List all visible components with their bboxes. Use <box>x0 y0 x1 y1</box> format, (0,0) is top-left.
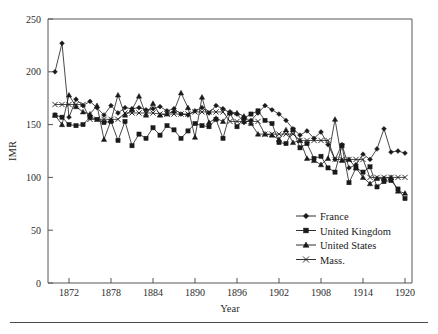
legend-label: Mass. <box>320 255 345 266</box>
x-tick-label: 1884 <box>143 287 163 298</box>
x-tick-label: 1902 <box>269 287 289 298</box>
legend-item-mass: Mass. <box>296 255 345 266</box>
figure-container: 050100150200250IMR1872187818841890189619… <box>0 0 438 334</box>
series-group <box>52 41 407 201</box>
legend-label: United States <box>320 240 376 251</box>
y-tick-label: 0 <box>36 278 41 289</box>
legend-item-united-states: United States <box>296 240 376 251</box>
x-tick-label: 1896 <box>227 287 247 298</box>
chart-legend: FranceUnited KingdomUnited StatesMass. <box>296 211 391 266</box>
legend-label: France <box>320 211 349 222</box>
legend-label: United Kingdom <box>320 226 391 237</box>
y-tick-label: 250 <box>26 14 41 25</box>
series-united-kingdom <box>53 109 407 201</box>
y-axis: 050100150200250IMR <box>7 14 53 289</box>
x-axis-title: Year <box>220 303 240 314</box>
footer-divider <box>10 322 428 323</box>
legend-item-united-kingdom: United Kingdom <box>296 226 391 237</box>
imr-line-chart: 050100150200250IMR1872187818841890189619… <box>0 0 438 334</box>
x-tick-label: 1878 <box>101 287 121 298</box>
y-tick-label: 50 <box>31 225 41 236</box>
x-tick-label: 1890 <box>185 287 205 298</box>
x-tick-label: 1908 <box>311 287 331 298</box>
y-tick-label: 100 <box>26 172 41 183</box>
x-tick-label: 1872 <box>59 287 79 298</box>
x-tick-label: 1920 <box>395 287 415 298</box>
series-france <box>53 41 408 170</box>
series-united-states <box>52 90 407 195</box>
y-tick-label: 200 <box>26 66 41 77</box>
y-axis-title: IMR <box>7 141 18 161</box>
legend-item-france: France <box>296 211 349 222</box>
x-tick-label: 1914 <box>353 287 373 298</box>
y-tick-label: 150 <box>26 119 41 130</box>
